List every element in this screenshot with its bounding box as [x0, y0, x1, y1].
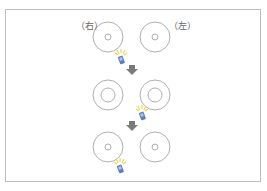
probe-device-icon: [114, 158, 126, 174]
left-ear-circle: [140, 22, 170, 52]
left-ear-circle: [140, 80, 170, 110]
probe-device-icon: [115, 49, 127, 65]
down-arrow-icon: [126, 65, 138, 75]
right-ear-circle: [93, 132, 123, 162]
label-left: （左）: [169, 19, 196, 32]
left-ear-circle: [140, 132, 170, 162]
row-3: [93, 132, 170, 174]
diagram-canvas: [0, 0, 267, 191]
right-ear-circle: [93, 80, 123, 110]
label-right: （右）: [76, 19, 103, 32]
down-arrow-icon: [126, 121, 138, 131]
row-1: [93, 22, 170, 65]
row-2: [93, 80, 170, 121]
